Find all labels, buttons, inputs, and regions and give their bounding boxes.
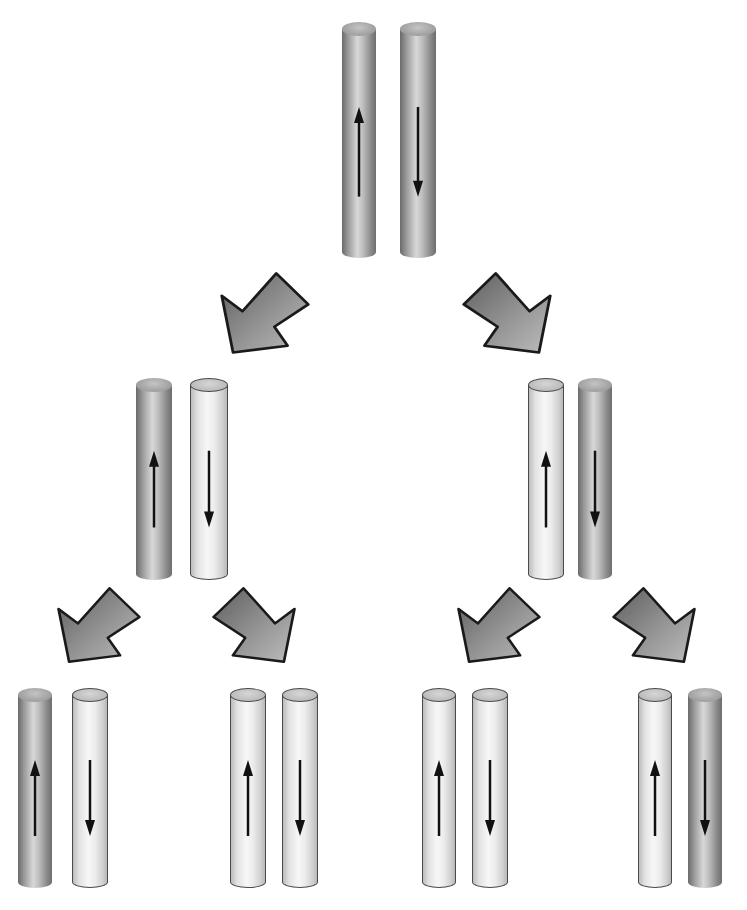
parental-strand — [578, 378, 612, 580]
parental-strand — [688, 688, 722, 888]
arrow-down-icon — [72, 688, 108, 888]
arrow-down-icon — [472, 688, 508, 888]
arrow-down-left-icon — [55, 585, 143, 665]
arrow-down-icon — [400, 22, 436, 258]
arrow-down-icon — [282, 688, 318, 888]
new-strand — [422, 688, 456, 888]
arrow-up-icon — [230, 688, 266, 888]
arrow-up-icon — [638, 688, 672, 888]
new-strand — [230, 688, 266, 888]
parental-strand — [342, 22, 376, 258]
arrow-down-right-icon — [210, 585, 298, 665]
arrow-down-left-icon — [455, 585, 543, 665]
arrow-down-icon — [688, 688, 722, 888]
arrow-up-icon — [342, 22, 376, 258]
arrow-down-icon — [578, 378, 612, 580]
arrow-up-icon — [18, 688, 52, 888]
new-strand — [528, 378, 564, 580]
arrow-down-right-icon — [610, 585, 698, 665]
arrow-up-icon — [136, 378, 172, 580]
arrow-up-icon — [422, 688, 456, 888]
parental-strand — [136, 378, 172, 580]
parental-strand — [400, 22, 436, 258]
parental-strand — [18, 688, 52, 888]
arrow-down-left-icon — [218, 270, 312, 356]
arrow-down-right-icon — [460, 270, 554, 356]
new-strand — [72, 688, 108, 888]
new-strand — [190, 378, 228, 580]
new-strand — [282, 688, 318, 888]
new-strand — [638, 688, 672, 888]
arrow-up-icon — [528, 378, 564, 580]
arrow-down-icon — [190, 378, 228, 580]
new-strand — [472, 688, 508, 888]
